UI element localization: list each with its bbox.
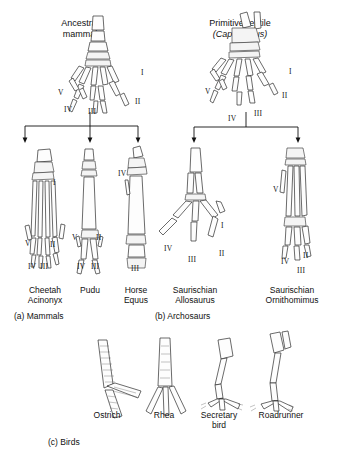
- ostrich-label: Ostrich: [94, 410, 121, 420]
- rhea-caption: Rhea: [140, 410, 188, 420]
- limb-evolution-figure: Ancestral mammal Primitive reptile (Capt…: [0, 0, 338, 456]
- rhea-label: Rhea: [154, 410, 174, 420]
- roadrunner-label: Roadrunner: [259, 410, 304, 420]
- rhea-leg: [146, 338, 186, 415]
- section-label-birds: (c) Birds: [48, 437, 80, 447]
- ostrich-caption: Ostrich: [82, 410, 132, 420]
- secretary-bird-label-line2: bird: [212, 420, 226, 430]
- roadrunner-caption: Roadrunner: [248, 410, 314, 420]
- bird-legs-drawing: [0, 0, 338, 456]
- roadrunner-leg: [250, 331, 294, 412]
- secretary-bird-label-line1: Secretary: [201, 410, 237, 420]
- secretary-bird-leg: [201, 338, 243, 410]
- secretary-bird-caption: Secretary bird: [188, 410, 250, 430]
- ostrich-leg: [98, 340, 141, 418]
